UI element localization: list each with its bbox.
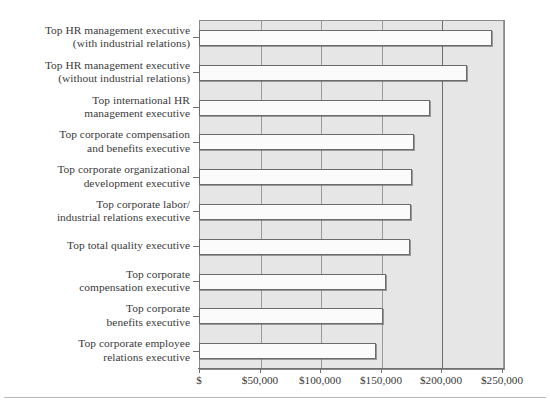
category-label-line: compensation executive <box>79 281 190 294</box>
bar-slot <box>200 195 504 230</box>
x-tick-label-250000: $250,000 <box>481 374 523 387</box>
category-label-line: Top corporate compensation <box>59 128 190 141</box>
category-label-row: Top corporatecompensation executive <box>8 264 192 299</box>
bar-slot <box>200 91 504 126</box>
category-label-line: industrial relations executive <box>57 211 190 224</box>
footer-divider <box>4 397 546 398</box>
bar[interactable] <box>199 100 430 116</box>
bar[interactable] <box>199 274 386 290</box>
bar-slot <box>200 230 504 265</box>
bar[interactable] <box>199 204 411 220</box>
x-tick-50000 <box>260 368 261 373</box>
category-label-row: Top HR management executive(without indu… <box>8 55 192 90</box>
category-label-row: Top HR management executive(with industr… <box>8 20 192 55</box>
bar-slot <box>200 334 504 369</box>
category-label-row: Top corporate organizationaldevelopment … <box>8 159 192 194</box>
bar[interactable] <box>199 308 383 324</box>
category-label-row: Top corporate employeerelations executiv… <box>8 333 192 368</box>
bar[interactable] <box>199 239 410 255</box>
x-tick-label-50000: $50,000 <box>242 374 278 387</box>
x-axis-line <box>198 368 504 369</box>
category-axis-labels: Top HR management executive(with industr… <box>8 20 192 368</box>
x-tick-label-100000: $100,000 <box>299 374 341 387</box>
category-label-line: development executive <box>84 177 190 190</box>
plot-area <box>199 20 505 370</box>
bar[interactable] <box>199 343 376 359</box>
bar-slot <box>200 265 504 300</box>
category-label-line: management executive <box>84 107 190 120</box>
category-label-row: Top international HRmanagement executive <box>8 90 192 125</box>
bar[interactable] <box>199 169 412 185</box>
category-label-line: Top corporate organizational <box>57 163 190 176</box>
category-label-row: Top total quality executive <box>8 229 192 264</box>
category-label-line: Top HR management executive <box>45 59 190 72</box>
category-label-line: (without industrial relations) <box>58 72 190 85</box>
category-label-line: and benefits executive <box>87 142 190 155</box>
category-label-line: (with industrial relations) <box>73 37 190 50</box>
x-tick-0 <box>199 368 200 373</box>
x-tick-label-200000: $200,000 <box>420 374 462 387</box>
plot-inner <box>200 21 504 369</box>
category-label-row: Top corporatebenefits executive <box>8 298 192 333</box>
category-label-row: Top corporate labor/industrial relations… <box>8 194 192 229</box>
x-tick-200000 <box>441 368 442 373</box>
category-label-line: relations executive <box>103 351 190 364</box>
bar-slot <box>200 21 504 56</box>
bar[interactable] <box>199 30 492 46</box>
bar[interactable] <box>199 65 467 81</box>
bar-slot <box>200 299 504 334</box>
x-tick-100000 <box>320 368 321 373</box>
category-label-line: Top international HR <box>92 94 190 107</box>
category-label-row: Top corporate compensationand benefits e… <box>8 124 192 159</box>
category-label-line: Top HR management executive <box>45 24 190 37</box>
x-tick-150000 <box>381 368 382 373</box>
x-tick-label-0: $ <box>196 374 202 387</box>
category-label-line: Top corporate employee <box>78 337 190 350</box>
x-tick-250000 <box>502 368 503 373</box>
x-tick-label-150000: $150,000 <box>360 374 402 387</box>
bar-slot <box>200 56 504 91</box>
bar-slot <box>200 160 504 195</box>
category-label-line: Top corporate <box>126 268 190 281</box>
bar[interactable] <box>199 134 414 150</box>
category-label-line: Top corporate labor/ <box>96 198 190 211</box>
category-label-line: benefits executive <box>107 316 190 329</box>
category-label-line: Top total quality executive <box>67 239 190 252</box>
category-label-line: Top corporate <box>126 302 190 315</box>
bar-slot <box>200 125 504 160</box>
bar-chart-figure: Top HR management executive(with industr… <box>0 0 550 413</box>
